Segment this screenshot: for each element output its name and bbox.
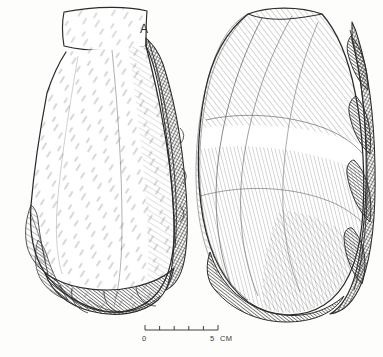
- figure-label-a: A: [140, 22, 149, 36]
- scale-end-label: 5: [210, 334, 214, 343]
- scale-start-label: 0: [142, 334, 146, 343]
- scale-bar: [140, 322, 230, 348]
- scale-unit-label: CM: [220, 334, 232, 343]
- artifact-plate: [0, 0, 383, 357]
